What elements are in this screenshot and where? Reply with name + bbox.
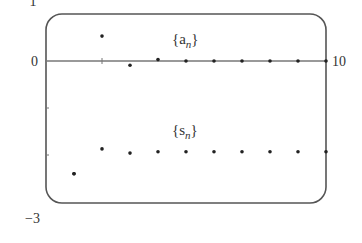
data-point xyxy=(128,63,132,67)
data-point xyxy=(212,150,216,154)
series-label-a: {an} xyxy=(172,31,199,50)
y-zero-label: 0 xyxy=(31,54,38,69)
data-point xyxy=(268,59,272,63)
data-point xyxy=(240,150,244,154)
data-point xyxy=(156,58,160,62)
data-point xyxy=(268,150,272,154)
data-point xyxy=(156,150,160,154)
series-s-points xyxy=(72,147,328,176)
data-point xyxy=(100,34,104,38)
data-point xyxy=(212,59,216,63)
y-top-label: 1 xyxy=(30,0,37,9)
data-point xyxy=(128,151,132,155)
data-point xyxy=(296,150,300,154)
series-a-points xyxy=(72,34,328,175)
data-point xyxy=(184,150,188,154)
data-point xyxy=(296,59,300,63)
sequence-plot: 1 0 −3 10 {an} {sn} xyxy=(0,0,362,243)
x-right-label: 10 xyxy=(332,54,346,69)
y-bottom-label: −3 xyxy=(25,211,40,226)
data-point xyxy=(184,59,188,63)
data-point xyxy=(100,147,104,151)
data-point xyxy=(324,59,328,63)
series-label-s: {sn} xyxy=(172,122,198,141)
data-point xyxy=(240,59,244,63)
data-point xyxy=(324,150,328,154)
data-point xyxy=(72,172,76,176)
